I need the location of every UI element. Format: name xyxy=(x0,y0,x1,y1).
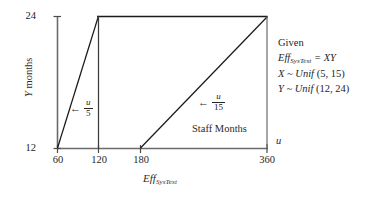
x-axis-title: EffSysTest xyxy=(120,173,200,186)
left-arrow-icon: ← xyxy=(198,97,209,108)
y-axis-title: Y months xyxy=(24,41,35,113)
x-axis-variable-label: u xyxy=(276,136,281,147)
given-distribution-x: X ~ Unif (5, 15) xyxy=(278,67,349,82)
fraction-numerator: u xyxy=(212,92,225,101)
fraction-denominator: 5 xyxy=(84,109,93,118)
x-tick-label-180: 180 xyxy=(126,155,156,166)
x-tick-label-60: 60 xyxy=(43,155,73,166)
given-eff-rest: = XY xyxy=(311,52,336,63)
given-y-dist: Unif xyxy=(295,83,314,94)
boundary-line-u-over-5 xyxy=(58,16,99,148)
given-heading: Given xyxy=(278,36,349,51)
given-x-args: (5, 15) xyxy=(314,68,345,79)
given-x-dist: Unif xyxy=(295,68,314,79)
fraction-u-over-5: u 5 xyxy=(84,98,93,119)
fraction-numerator: u xyxy=(84,98,93,107)
left-arrow-icon: ← xyxy=(70,103,81,114)
figure-canvas: 24 12 60 120 180 360 u Y months EffSysTe… xyxy=(0,0,366,197)
y-axis-title-unit: months xyxy=(23,58,34,92)
y-axis-title-var: Y xyxy=(23,91,34,97)
given-eff-main: Eff xyxy=(278,52,290,63)
plot-area xyxy=(0,0,366,197)
given-equation-eff: EffSysTest = XY xyxy=(278,51,349,67)
y-tick-label-24: 24 xyxy=(14,11,36,22)
given-distribution-y: Y ~ Unif (12, 24) xyxy=(278,82,349,97)
given-y-tilde: ~ xyxy=(284,83,295,94)
given-y-args: (12, 24) xyxy=(313,83,349,94)
given-annotation-block: Given EffSysTest = XY X ~ Unif (5, 15) Y… xyxy=(278,36,349,97)
region-label-staff-months: Staff Months xyxy=(192,124,247,135)
annotation-u-over-15: ← u 15 xyxy=(198,92,225,113)
fraction-denominator: 15 xyxy=(212,103,225,112)
x-tick-label-120: 120 xyxy=(84,155,114,166)
y-tick-label-12: 12 xyxy=(14,143,36,154)
given-x-tilde: ~ xyxy=(284,68,295,79)
annotation-u-over-5: ← u 5 xyxy=(70,98,93,119)
x-axis-title-subscript: SysTest xyxy=(156,178,177,186)
fraction-u-over-15: u 15 xyxy=(212,92,225,113)
given-eff-subscript: SysTest xyxy=(290,57,311,65)
x-axis-title-main: Eff xyxy=(143,172,156,184)
x-tick-label-360: 360 xyxy=(252,155,282,166)
